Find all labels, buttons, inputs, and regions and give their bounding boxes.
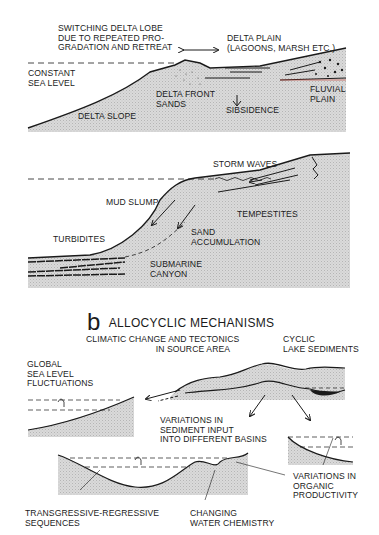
label-delta-slope: DELTA SLOPE	[78, 112, 136, 122]
label-delta-front-sands: DELTA FRONT SANDS	[156, 90, 215, 109]
label-transgressive-regressive: TRANSGRESSIVE-REGRESSIVE SEQUENCES	[25, 509, 159, 528]
panel-letter: b	[87, 308, 101, 335]
label-climatic-change: CLIMATIC CHANGE AND TECTONICS IN SOURCE …	[86, 335, 239, 354]
label-turbidites: TURBIDITES	[53, 235, 105, 245]
label-global-sea-level: GLOBAL SEA LEVEL FLUCTUATIONS	[27, 360, 93, 389]
label-subsidence: SIBSIDENCE	[226, 106, 279, 116]
label-delta-plain: DELTA PLAIN (LAGOONS, MARSH ETC.)	[227, 34, 335, 53]
label-tempestites: TEMPESTITES	[237, 210, 298, 220]
panel-title: ALLOCYCLIC MECHANISMS	[109, 316, 275, 330]
label-water-chemistry: CHANGING WATER CHEMISTRY	[190, 509, 274, 528]
label-organic-productivity: VARIATIONS IN ORGANIC PRODUCTIVITY	[293, 472, 358, 501]
label-submarine-canyon: SUBMARINE CANYON	[150, 260, 202, 279]
label-storm-waves: STORM WAVES	[213, 160, 277, 170]
label-constant-sea-level: CONSTANT SEA LEVEL	[28, 69, 75, 88]
label-sediment-input: VARIATIONS IN SEDIMENT INPUT INTO DIFFER…	[160, 416, 267, 445]
label-cyclic-lake-sediments: CYCLIC LAKE SEDIMENTS	[283, 335, 359, 354]
label-switching-delta-lobe: SWITCHING DELTA LOBE DUE TO REPEATED PRO…	[58, 24, 172, 53]
label-mud-slump: MUD SLUMP	[106, 198, 158, 208]
label-fluvial-plain: FLUVIAL PLAIN	[310, 85, 346, 104]
panel-b-heading: bALLOCYCLIC MECHANISMS	[87, 308, 274, 336]
label-sand-accumulation: SAND ACCUMULATION	[191, 228, 260, 247]
